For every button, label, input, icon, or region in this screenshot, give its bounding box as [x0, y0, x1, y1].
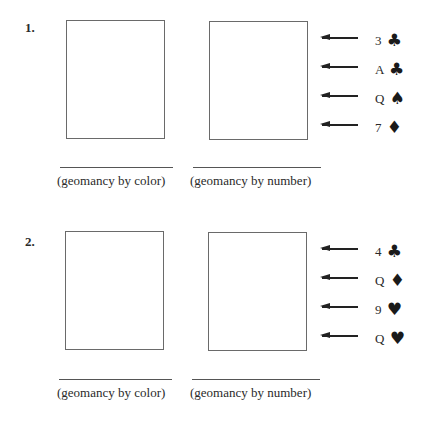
answer-line-color	[59, 379, 172, 380]
card-label: 3 ♣	[375, 29, 402, 49]
card-label: 7 ♦	[375, 116, 402, 136]
arrow-left-icon	[322, 124, 358, 126]
card-label: A ♣	[375, 58, 404, 78]
card-row: A ♣	[322, 60, 432, 74]
diamonds-icon: ♦	[387, 117, 402, 137]
card-row: Q ♥	[322, 329, 432, 343]
color-figure-box	[65, 231, 164, 350]
clubs-icon: ♣	[387, 241, 402, 261]
card-row: 3 ♣	[322, 31, 432, 45]
clubs-icon: ♣	[389, 59, 404, 79]
card-row: Q ♠	[322, 89, 432, 103]
caption-number: (geomancy by number)	[190, 385, 311, 401]
card-label: Q ♠	[375, 87, 405, 107]
card-row: 7 ♦	[322, 118, 432, 132]
card-row: 4 ♣	[322, 242, 432, 256]
hearts-icon: ♥	[390, 328, 405, 348]
number-figure-box	[208, 232, 307, 351]
card-label: 4 ♣	[375, 240, 402, 260]
card-label: Q ♦	[375, 269, 405, 289]
hearts-icon: ♥	[387, 299, 402, 319]
card-label: Q ♥	[375, 327, 405, 347]
arrow-left-icon	[322, 277, 358, 279]
problem-number: 1.	[25, 20, 35, 36]
answer-line-number	[192, 379, 320, 380]
number-figure-box	[209, 21, 308, 140]
card-row: 9 ♥	[322, 300, 432, 314]
problem-number: 2.	[25, 234, 35, 250]
arrow-left-icon	[322, 306, 358, 308]
arrow-left-icon	[322, 335, 358, 337]
arrow-left-icon	[322, 95, 358, 97]
clubs-icon: ♣	[387, 30, 402, 50]
caption-number: (geomancy by number)	[190, 173, 311, 189]
answer-line-color	[60, 167, 173, 168]
caption-color: (geomancy by color)	[57, 173, 165, 189]
arrow-left-icon	[322, 66, 358, 68]
answer-line-number	[193, 167, 321, 168]
caption-color: (geomancy by color)	[57, 385, 165, 401]
card-label: 9 ♥	[375, 298, 402, 318]
card-row: Q ♦	[322, 271, 432, 285]
arrow-left-icon	[322, 248, 358, 250]
spades-icon: ♠	[390, 88, 405, 108]
color-figure-box	[66, 20, 165, 139]
diamonds-icon: ♦	[390, 270, 405, 290]
arrow-left-icon	[322, 37, 358, 39]
